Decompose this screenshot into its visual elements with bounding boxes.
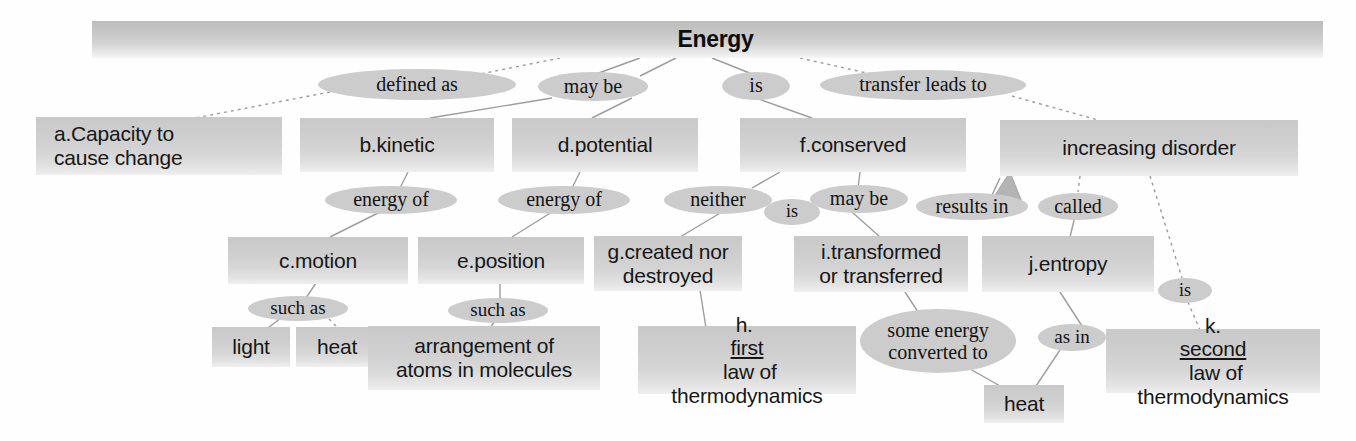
linking-phrase-label: called <box>1054 196 1102 218</box>
concept-box-label: g.created nor destroyed <box>594 240 742 287</box>
concept-box-a-capacity: a.Capacity to cause change <box>36 117 282 175</box>
concept-map-canvas: Energy defined as may be is transfer lea… <box>0 0 1356 441</box>
link-definedas-a <box>195 92 330 118</box>
concept-box-light: light <box>212 327 290 367</box>
link-maybe-d <box>592 98 632 118</box>
concept-box-label: increasing disorder <box>1000 136 1298 160</box>
concept-box-label: h. first law of thermodynamics <box>638 313 856 407</box>
linking-phrase-label: is <box>749 75 762 97</box>
concept-box-h-first-law: h. first law of thermodynamics <box>638 326 856 394</box>
linking-phrase-label: energy of <box>526 189 602 211</box>
concept-line-1: h. first law of <box>638 313 856 384</box>
link-f-neither <box>752 172 780 188</box>
link-energyof2-e <box>512 212 552 237</box>
concept-box-g-created-nor-destroyed: g.created nor destroyed <box>594 236 742 291</box>
linking-phrase-neither: neither <box>664 186 772 214</box>
concept-box-heat-2: heat <box>984 385 1064 423</box>
k-underlined-word: second <box>1106 337 1320 361</box>
concept-line-2: or transferred <box>794 264 968 288</box>
linking-phrase-may-be-1: may be <box>538 72 648 101</box>
concept-box-label: e.position <box>418 249 584 273</box>
concept-box-d-potential: d.potential <box>512 118 698 172</box>
concept-box-c-motion: c.motion <box>228 237 408 284</box>
link-entropy-asin <box>1060 292 1082 326</box>
concept-box-b-kinetic: b.kinetic <box>300 118 494 172</box>
link-asin-heat <box>1036 350 1060 386</box>
energy-banner: Energy <box>92 21 1323 58</box>
concept-box-heat-1: heat <box>296 327 378 367</box>
linking-phrase-label: results in <box>936 196 1009 218</box>
concept-line-2: thermodynamics <box>1106 385 1320 409</box>
link-energyof1-c <box>330 212 380 237</box>
linking-phrase-label: is <box>1179 281 1191 300</box>
linking-phrase-results-in: results in <box>916 193 1028 220</box>
concept-box-label: a.Capacity to cause change <box>54 122 282 169</box>
linking-phrase-label-line-1: some energy <box>887 319 988 341</box>
linking-phrase-defined-as: defined as <box>318 69 516 100</box>
link-is-f <box>756 98 812 118</box>
linking-phrase-energy-of-1: energy of <box>325 186 457 214</box>
concept-line-2: cause change <box>54 146 282 170</box>
linking-phrase-label: such as <box>470 300 525 321</box>
linking-phrase-label: may be <box>564 76 622 98</box>
linking-phrase-label: neither <box>690 189 746 211</box>
concept-box-label: f.conserved <box>740 133 966 157</box>
concept-box-label: b.kinetic <box>300 133 494 157</box>
link-energy-maybe2 <box>640 58 676 76</box>
link-neither-g <box>680 212 722 237</box>
link-maybe2-i <box>852 212 880 237</box>
concept-box-label: light <box>212 335 290 359</box>
concept-box-label: d.potential <box>512 133 698 157</box>
concept-line-1: k.second law of <box>1106 314 1320 385</box>
linking-phrase-energy-of-2: energy of <box>498 186 630 214</box>
concept-box-label: arrangement of atoms in molecules <box>368 334 600 381</box>
concept-line-2: atoms in molecules <box>368 358 600 382</box>
link-disorder-called <box>1078 176 1080 192</box>
concept-box-e-position: e.position <box>418 237 584 284</box>
page-title: Energy <box>92 21 1323 58</box>
concept-line-2: thermodynamics <box>638 384 856 408</box>
link-maybe-b <box>430 98 552 118</box>
linking-phrase-called: called <box>1038 193 1118 220</box>
linking-phrase-label: energy of <box>353 189 429 211</box>
link-i-someenergy <box>905 292 918 312</box>
linking-phrase-label: such as <box>270 298 325 319</box>
linking-phrase-label: may be <box>830 188 888 210</box>
linking-phrase-label: defined as <box>376 74 458 96</box>
concept-box-f-conserved: f.conserved <box>740 118 966 172</box>
concept-line-1: arrangement of <box>368 334 600 358</box>
linking-phrase-transfer-leads-to: transfer leads to <box>820 70 1026 100</box>
h-underlined-word: first <box>638 336 856 360</box>
linking-phrase-such-as-1: such as <box>248 296 348 321</box>
linking-phrase-some-energy-converted-to: some energy converted to <box>860 309 1016 373</box>
linking-phrase-such-as-2: such as <box>448 298 548 323</box>
concept-line-1: g.created nor <box>594 240 742 264</box>
concept-box-label: j.entropy <box>982 252 1154 276</box>
h-suffix: law of <box>638 360 856 384</box>
concept-box-label: c.motion <box>228 249 408 273</box>
linking-phrase-label: as in <box>1054 327 1089 348</box>
concept-box-label: k.second law of thermodynamics <box>1106 314 1320 408</box>
linking-phrase-label-line-2: converted to <box>888 341 987 363</box>
concept-box-label: heat <box>984 392 1064 416</box>
linking-phrase-may-be-2: may be <box>810 185 908 213</box>
concept-box-k-second-law: k.second law of thermodynamics <box>1106 329 1320 393</box>
linking-phrase-label: transfer leads to <box>859 74 987 96</box>
concept-box-arrangement-of-atoms: arrangement of atoms in molecules <box>368 326 600 390</box>
link-transfer-disorder <box>1012 96 1098 120</box>
concept-box-j-entropy: j.entropy <box>982 236 1154 292</box>
concept-line-1: a.Capacity to <box>54 122 282 146</box>
concept-line-2: destroyed <box>594 264 742 288</box>
linking-phrase-is-3: is <box>1158 278 1212 303</box>
linking-phrase-is-1: is <box>722 72 790 100</box>
linking-phrase-as-in: as in <box>1038 324 1106 351</box>
linking-phrase-label: is <box>786 202 798 221</box>
h-prefix: h. <box>638 313 856 337</box>
k-prefix: k. <box>1106 314 1320 338</box>
concept-box-i-transformed-or-transferred: i.transformed or transferred <box>794 236 968 292</box>
concept-box-label: i.transformed or transferred <box>794 240 968 287</box>
k-suffix: law of <box>1106 361 1320 385</box>
concept-line-1: i.transformed <box>794 240 968 264</box>
concept-box-label: heat <box>296 335 378 359</box>
link-disorder-is3 <box>1150 176 1182 278</box>
